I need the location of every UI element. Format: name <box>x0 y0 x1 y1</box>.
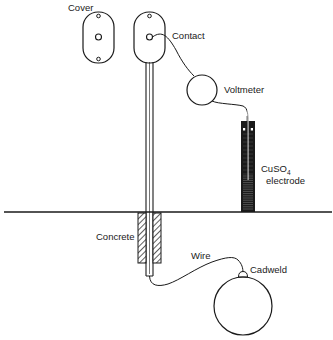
contact-label: Contact <box>172 30 205 41</box>
cover-label: Cover <box>68 2 93 13</box>
wire-label: Wire <box>191 250 211 261</box>
buried-structure <box>214 277 272 335</box>
cuso4-electrode <box>241 108 255 212</box>
cadweld-label: Cadweld <box>250 264 287 275</box>
corrosion-test-station-diagram: Cover Contact Voltmeter CuSO4 electrode … <box>0 0 333 340</box>
test-head <box>134 12 165 63</box>
concrete-label: Concrete <box>96 231 135 242</box>
cadweld-joint <box>239 272 248 278</box>
electrode-formula: CuSO <box>261 163 287 174</box>
test-rod <box>146 62 153 276</box>
diagram-canvas: Cover Contact Voltmeter CuSO4 electrode … <box>0 0 333 340</box>
electrode-label: CuSO4 <box>261 163 291 176</box>
cover-plate <box>83 12 114 63</box>
voltmeter-label: Voltmeter <box>224 84 264 95</box>
voltmeter <box>187 75 217 105</box>
wire-voltmeter-to-electrode <box>212 101 248 122</box>
electrode-label-second-line: electrode <box>266 175 305 186</box>
